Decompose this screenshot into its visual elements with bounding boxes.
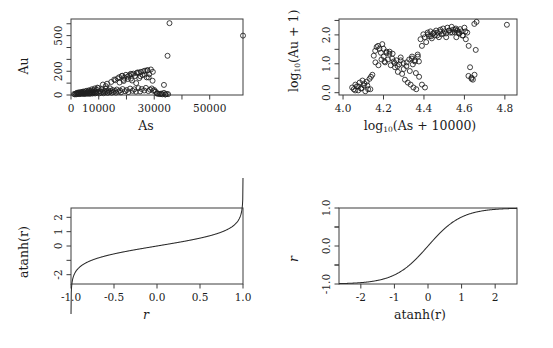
plot-log-as-au: 4.04.24.44.64.80.01.02.0 <box>270 0 553 175</box>
axis-label-x-log-sub: 10 <box>383 125 393 134</box>
y-tick-label: 0.0 <box>320 238 332 255</box>
plot-atanh: -1.0-0.50.00.51.0-2012 <box>0 190 276 348</box>
plot-frame <box>71 19 243 95</box>
axis-label-y-log-rest: (Au + 1) <box>286 10 301 63</box>
x-tick-label: -2 <box>356 291 366 303</box>
axis-label-y-au: Au <box>16 57 31 74</box>
axis-label-y-log-sub: 10 <box>293 63 302 73</box>
axis-label-x-as: As <box>138 118 153 133</box>
panel-log-as-au: 4.04.24.44.64.80.01.02.0 log10(As + 1000… <box>270 0 553 175</box>
y-tick-label: 1.0 <box>320 200 332 217</box>
figure-page: 01000030000500000200500 As Au 4.04.24.44… <box>0 0 553 348</box>
panel-as-au: 01000030000500000200500 As Au <box>0 0 276 175</box>
x-tick-label: 30000 <box>138 102 171 114</box>
axis-label-x-log-rest: (As + 10000) <box>393 118 476 133</box>
y-tick-label: 0 <box>52 92 64 99</box>
y-tick-label: 500 <box>52 26 64 46</box>
x-tick-label: 0.5 <box>192 291 209 303</box>
y-tick-label: 0 <box>52 243 64 250</box>
x-tick-label: 4.6 <box>456 102 473 114</box>
axis-label-y-atanh: atanh(r) <box>16 226 31 278</box>
y-tick-label: 1 <box>52 228 64 235</box>
axis-label-x-log-main: log <box>364 118 384 133</box>
plot-tanh: -2-1012-1.00.01.0 <box>270 190 553 348</box>
x-tick-label: 4.8 <box>497 102 514 114</box>
x-tick-label: 0 <box>425 291 432 303</box>
y-tick-label: 2.0 <box>320 27 332 44</box>
function-curve <box>339 208 517 283</box>
y-tick-label: 2 <box>52 214 64 221</box>
x-tick-label: 4.0 <box>335 102 352 114</box>
panel-tanh: -2-1012-1.00.01.0 atanh(r) r <box>270 190 553 348</box>
axis-label-y-r: r <box>286 256 301 262</box>
y-tick-label: -2 <box>52 270 64 280</box>
x-tick-label: 0.0 <box>149 291 166 303</box>
y-tick-label: 1.0 <box>320 55 332 72</box>
x-tick-label: -1 <box>389 291 399 303</box>
axis-label-y-log-au: log10(Au + 1) <box>286 10 302 92</box>
x-tick-label: 0 <box>68 102 75 114</box>
axis-label-x-atanh: atanh(r) <box>394 307 446 322</box>
x-tick-label: -0.5 <box>104 291 124 303</box>
axis-label-x-log-as: log10(As + 10000) <box>364 118 476 134</box>
scatter-points <box>72 21 246 97</box>
x-tick-label: 50000 <box>193 102 226 114</box>
panel-atanh: -1.0-0.50.00.51.0-2012 r atanh(r) <box>0 190 276 348</box>
axis-label-y-log-main: log <box>286 72 301 92</box>
y-tick-label: -1.0 <box>320 274 332 294</box>
y-tick-label: 0.0 <box>320 84 332 101</box>
y-tick-label: 200 <box>52 61 64 81</box>
plot-as-au: 01000030000500000200500 <box>0 0 276 175</box>
axis-label-x-r: r <box>143 307 149 322</box>
x-tick-label: 10000 <box>82 102 115 114</box>
x-tick-label: 1.0 <box>235 291 252 303</box>
scatter-points <box>350 19 510 93</box>
x-tick-label: 4.4 <box>416 102 433 114</box>
x-tick-label: 4.2 <box>375 102 392 114</box>
x-tick-label: 1 <box>458 291 465 303</box>
x-tick-label: 2 <box>492 291 499 303</box>
